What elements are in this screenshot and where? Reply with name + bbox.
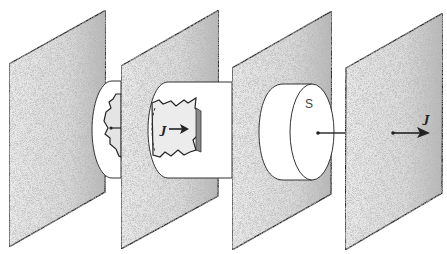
vector-label-right: J bbox=[422, 113, 430, 126]
small-dot-icon bbox=[109, 126, 112, 129]
diagram-canvas: J S J bbox=[0, 0, 447, 254]
vector-label-middle: J bbox=[159, 124, 167, 137]
plane-4: J bbox=[345, 13, 443, 250]
plane-1 bbox=[9, 10, 106, 247]
plane-4-surface bbox=[345, 13, 443, 250]
surface-label-s: S bbox=[305, 97, 313, 111]
long-cylinder: J bbox=[148, 82, 232, 178]
torn-patch bbox=[152, 98, 199, 157]
disk-cylinder: S bbox=[259, 84, 347, 180]
torn-patch-edge bbox=[196, 108, 201, 152]
plane-1-surface bbox=[9, 10, 106, 247]
disk-dot-icon bbox=[316, 131, 320, 135]
